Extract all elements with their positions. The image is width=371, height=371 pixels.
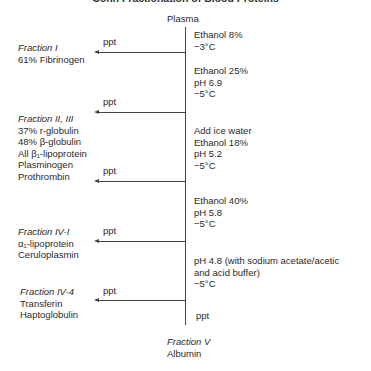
- fraction-5: Fraction V Albumin: [167, 336, 210, 359]
- fraction-4-4: Fraction IV-4 Transferin Haptoglobulin: [20, 286, 78, 321]
- main-flow-line: [185, 27, 186, 325]
- step-2-conditions: Ethanol 25%pH 6.9−5°C: [194, 65, 248, 100]
- arrow-left-icon: [98, 300, 185, 301]
- ppt-label-2: ppt: [103, 96, 116, 108]
- ppt-label-5: ppt: [103, 285, 116, 297]
- ppt-label-3: ppt: [103, 165, 116, 177]
- plasma-label: Plasma: [167, 13, 199, 25]
- arrow-left-icon: [98, 241, 185, 242]
- fraction-4-1: Fraction IV-I α₁-lipoprotein Ceruloplasm…: [18, 226, 79, 261]
- step-3-conditions: Add ice waterEthanol 18%pH 5.2−5°C: [194, 125, 252, 171]
- diagram-title: Cohn Fractionation of Blood Proteins: [0, 0, 371, 5]
- final-ppt-label: ppt: [196, 310, 209, 322]
- arrow-left-icon: [98, 112, 185, 113]
- arrow-left-icon: [98, 52, 185, 53]
- step-1-conditions: Ethanol 8%−3°C: [194, 29, 243, 52]
- fraction-1: Fraction I 61% Fibrinogen: [18, 42, 85, 65]
- arrow-left-icon: [98, 181, 185, 182]
- ppt-label-1: ppt: [103, 36, 116, 48]
- step-4-conditions: Ethanol 40%pH 5.8−5°C: [194, 195, 248, 230]
- ppt-label-4: ppt: [103, 225, 116, 237]
- step-5-conditions: pH 4.8 (with sodium acetate/aceticand ac…: [194, 255, 339, 290]
- fraction-2-3: Fraction II, III 37% r-globulin 48% β-gl…: [18, 113, 87, 182]
